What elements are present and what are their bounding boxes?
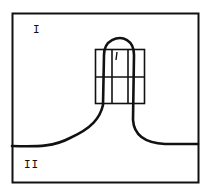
outer-frame: [13, 14, 199, 183]
boundary-curve: [12, 38, 198, 146]
region-label-I: I: [33, 23, 41, 36]
grid-tick: [116, 52, 117, 60]
region-label-II: II: [24, 158, 39, 171]
